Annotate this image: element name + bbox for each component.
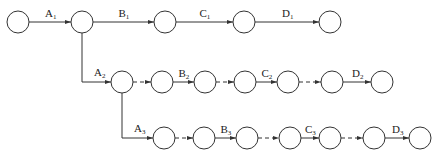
activity-label: C3 (305, 123, 316, 137)
event-node-r3n4 (279, 127, 301, 149)
event-node-r3n3 (236, 127, 258, 149)
activity-label: B2 (179, 67, 190, 81)
event-nodes (7, 11, 431, 149)
activity-subscript: 3 (228, 129, 232, 137)
activity-subscript: 1 (207, 13, 211, 21)
activity-label: C1 (200, 7, 211, 21)
event-node-r1n2 (71, 11, 93, 33)
event-node-r2n7 (371, 71, 393, 93)
activity-labels: A1B1C1D1A2B2C2D2A3B3C3D3 (45, 7, 404, 137)
event-node-r2n4 (234, 71, 256, 93)
event-node-r2n1 (111, 71, 133, 93)
activity-subscript: 1 (290, 13, 294, 21)
event-node-r3n7 (409, 127, 431, 149)
event-node-r2n6 (321, 71, 343, 93)
event-node-r1n3 (154, 11, 176, 33)
event-node-r3n1 (153, 127, 175, 149)
activity-subscript: 3 (400, 129, 404, 137)
activity-label: B3 (221, 123, 232, 137)
event-node-r1n4 (233, 11, 255, 33)
activity-subscript: 1 (126, 13, 130, 21)
event-node-r1n5 (319, 11, 341, 33)
activity-label: C2 (262, 67, 273, 81)
activity-subscript: 3 (312, 129, 316, 137)
network-diagram: A1B1C1D1A2B2C2D2A3B3C3D3 (0, 0, 441, 158)
activity-subscript: 2 (269, 73, 273, 81)
activity-label: A1 (45, 7, 57, 21)
activity-label: A2 (94, 66, 106, 80)
event-node-r3n6 (363, 127, 385, 149)
event-node-r3n2 (193, 127, 215, 149)
event-node-r2n3 (194, 71, 216, 93)
event-node-r2n2 (151, 71, 173, 93)
activity-label: A3 (134, 122, 146, 136)
event-node-r3n5 (319, 127, 341, 149)
event-node-r1n1 (7, 11, 29, 33)
activity-subscript: 3 (142, 128, 146, 136)
activity-label: D3 (392, 123, 404, 137)
activity-subscript: 2 (186, 73, 190, 81)
event-node-r2n5 (277, 71, 299, 93)
activity-label: D1 (282, 7, 294, 21)
activity-label: B1 (119, 7, 130, 21)
activity-subscript: 1 (53, 13, 57, 21)
activity-label: D2 (352, 67, 364, 81)
activity-subscript: 2 (360, 73, 364, 81)
activity-arrows (29, 22, 409, 138)
activity-subscript: 2 (102, 72, 106, 80)
